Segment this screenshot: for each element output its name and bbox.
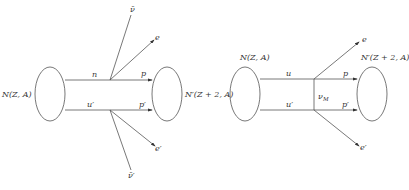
upper-in-label: u (286, 69, 291, 78)
electron-prime-label: e′ (155, 144, 162, 153)
initial-nucleus-oval (35, 67, 65, 121)
final-nucleus-label: N′(Z + 2, A) (184, 90, 233, 99)
feynman-diagrams: N(Z, A) N′(Z + 2, A) n p u′ p′ ν̄ e e′ ν… (0, 0, 409, 190)
lower-out-label: p′ (139, 100, 146, 109)
antineutrino-prime-label: ν̄′ (128, 171, 135, 180)
final-nucleus-oval (357, 67, 387, 121)
lower-in-label: u′ (87, 100, 94, 109)
final-nucleus-label: N′(Z + 2, A) (360, 53, 409, 62)
antineutrino-prime-line (110, 110, 131, 170)
electron-label: e (155, 33, 160, 42)
lower-out-label: p′ (342, 100, 349, 109)
initial-nucleus-label: N(Z, A) (239, 53, 270, 62)
diagram-neutrinoless: N(Z, A) N′(Z + 2, A) u p u′ p′ νM e e′ (230, 35, 409, 152)
initial-nucleus-label: N(Z, A) (1, 90, 32, 99)
antineutrino-label: ν̄ (130, 5, 135, 14)
final-nucleus-oval (152, 67, 182, 121)
electron-label: e (362, 35, 367, 44)
diagram-two-neutrino: N(Z, A) N′(Z + 2, A) n p u′ p′ ν̄ e e′ ν… (1, 5, 233, 180)
upper-in-label: n (92, 70, 97, 79)
electron-prime-line (110, 110, 155, 146)
electron-prime-line (314, 110, 359, 146)
upper-out-label: p (141, 69, 146, 78)
lower-in-label: u′ (286, 100, 293, 109)
electron-prime-label: e′ (360, 143, 367, 152)
exchange-label: νM (318, 92, 329, 102)
electron-line (314, 42, 359, 79)
upper-out-label: p (343, 69, 348, 78)
initial-nucleus-oval (230, 67, 260, 121)
